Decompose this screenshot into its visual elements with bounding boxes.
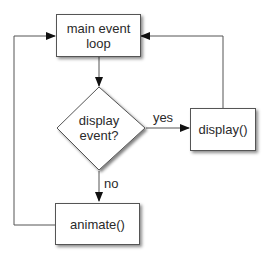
main-loop-label-line2: loop: [67, 36, 131, 51]
yes-edge-label: yes: [148, 110, 178, 125]
main-event-loop-node: main event loop: [56, 14, 141, 57]
edge-display-to-main: [141, 36, 223, 108]
decision-label-line2: event?: [64, 128, 134, 143]
decision-label: display event?: [64, 113, 134, 143]
display-node: display(): [190, 108, 256, 151]
main-loop-label-line1: main event: [67, 21, 131, 36]
display-label: display(): [198, 122, 247, 137]
animate-node: animate(): [55, 203, 140, 245]
edge-animate-to-main: [14, 36, 55, 225]
no-edge-label: no: [104, 176, 124, 191]
decision-label-line1: display: [64, 113, 134, 128]
animate-label: animate(): [70, 217, 125, 232]
